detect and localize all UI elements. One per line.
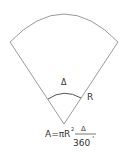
radius-label: R bbox=[87, 92, 93, 102]
formula-exponent: 2 bbox=[71, 126, 74, 132]
angle-arc bbox=[48, 93, 81, 99]
formula-lhs: A=πR bbox=[45, 129, 70, 139]
fraction-numerator: Δ bbox=[81, 125, 86, 133]
degree-symbol: ° bbox=[92, 135, 95, 141]
sector-diagram: Δ R A=πR 2 Δ 360 ° bbox=[0, 0, 128, 153]
angle-label: Δ bbox=[61, 78, 67, 87]
sector-outer-arc bbox=[10, 14, 118, 42]
fraction-denominator: 360 bbox=[73, 138, 90, 148]
right-radius-line bbox=[64, 42, 118, 124]
left-radius-line bbox=[10, 42, 64, 124]
